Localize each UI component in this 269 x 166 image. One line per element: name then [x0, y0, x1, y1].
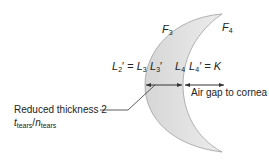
- arrowhead-air-left: [185, 83, 190, 87]
- label-l3p: L3′: [150, 61, 162, 73]
- label-reduced-thickness: Reduced thickness 2: [14, 105, 107, 115]
- contact-lens-shape: [145, 14, 222, 152]
- label-air-gap: Air gap to cornea: [191, 88, 267, 98]
- label-l4p-eq-k: L4′ = K: [189, 61, 221, 73]
- label-l2p-eq-l3: L2′ = L3: [112, 61, 147, 73]
- label-t-over-n: ttears/ntears: [14, 118, 56, 129]
- label-l4: L4: [175, 61, 185, 73]
- label-f3: F3: [162, 24, 173, 36]
- label-f4: F4: [222, 22, 233, 34]
